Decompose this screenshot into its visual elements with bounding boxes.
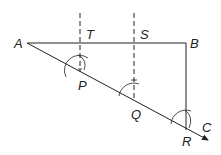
label-c: C bbox=[202, 120, 212, 135]
label-b: B bbox=[190, 36, 199, 51]
label-s: S bbox=[140, 27, 149, 42]
line-ac bbox=[27, 43, 208, 140]
construction-diagram: A T S B P Q R C bbox=[0, 0, 221, 155]
label-a: A bbox=[13, 36, 23, 51]
arc-p2 bbox=[78, 55, 85, 70]
label-r: R bbox=[182, 134, 191, 149]
label-q: Q bbox=[131, 107, 141, 122]
label-t: T bbox=[86, 27, 95, 42]
label-p: P bbox=[78, 78, 87, 93]
